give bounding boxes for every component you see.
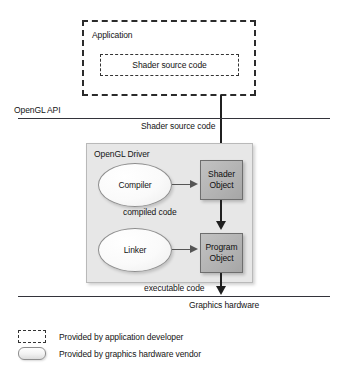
shader-source-code-label: Shader source code: [132, 60, 206, 70]
linker-label: Linker: [124, 245, 147, 255]
legend-dashed-rect-icon: [18, 330, 46, 343]
arrow-linker-to-program-object-line: [172, 249, 192, 250]
arrow-shader-object-to-program-object-head-icon: [216, 221, 226, 230]
opengl-driver-label: OpenGL Driver: [94, 149, 150, 159]
program-object-label-line1: Program: [206, 242, 238, 253]
legend-filled-rounded-rect-icon: [18, 347, 46, 360]
compiler-node: Compiler: [98, 163, 172, 207]
shader-object-box: Shader Object: [200, 160, 243, 200]
legend-item-label: Provided by graphics hardware vendor: [59, 349, 201, 359]
graphics-hardware-label: Graphics hardware: [189, 300, 259, 310]
legend-item-application-developer: Provided by application developer: [18, 328, 318, 345]
shader-source-code-box: Shader source code: [100, 54, 239, 76]
opengl-api-label: OpenGL API: [14, 105, 60, 115]
program-object-label-line2: Object: [210, 253, 234, 264]
compiled-code-label: compiled code: [123, 207, 177, 217]
shader-object-label-line2: Object: [210, 180, 234, 191]
graphics-hardware-boundary-line: [18, 296, 330, 297]
arrow-compiler-to-shader-object-line: [172, 184, 192, 185]
legend-item-hardware-vendor: Provided by graphics hardware vendor: [18, 345, 318, 362]
arrow-program-object-to-hardware-head-icon: [216, 286, 226, 295]
compiler-label: Compiler: [118, 180, 151, 190]
program-object-box: Program Object: [200, 233, 243, 273]
opengl-api-boundary-line: [18, 118, 330, 119]
legend-item-label: Provided by application developer: [59, 332, 183, 342]
diagram-canvas: Application Shader source code OpenGL AP…: [0, 0, 350, 375]
shader-object-label-line1: Shader: [208, 169, 235, 180]
application-label: Application: [92, 30, 132, 40]
legend: Provided by application developer Provid…: [18, 328, 318, 362]
arrow-compiler-to-shader-object-head-icon: [190, 180, 198, 188]
arrow-linker-to-program-object-head-icon: [190, 245, 198, 253]
shader-source-code-flow-label: Shader source code: [141, 121, 215, 131]
executable-code-label: executable code: [144, 283, 204, 293]
linker-node: Linker: [98, 228, 172, 272]
